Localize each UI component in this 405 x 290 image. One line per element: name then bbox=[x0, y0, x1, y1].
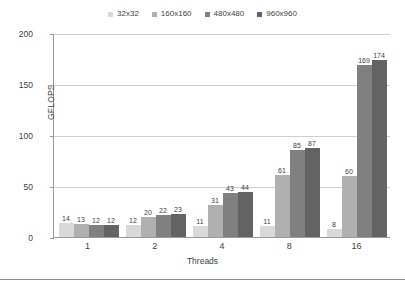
legend-swatch-icon bbox=[205, 12, 210, 17]
bar-rect bbox=[305, 148, 320, 237]
bar-value-label: 169 bbox=[358, 57, 370, 64]
bar-480x480-1[interactable]: 12 bbox=[89, 34, 104, 237]
y-axis-tick bbox=[50, 85, 54, 86]
y-axis-tick-label: 100 bbox=[0, 132, 33, 141]
y-axis-tick-label: 200 bbox=[0, 30, 33, 39]
y-axis-tick bbox=[50, 34, 54, 35]
legend-label: 160x160 bbox=[161, 10, 192, 18]
x-axis-tick-label: 4 bbox=[188, 241, 255, 251]
bar-value-label: 60 bbox=[345, 168, 353, 175]
y-axis-tick bbox=[50, 136, 54, 137]
x-axis-tick-label: 8 bbox=[256, 241, 323, 251]
bar-rect bbox=[59, 223, 74, 237]
bar-group-1: 14131212 bbox=[55, 34, 122, 237]
bar-rect bbox=[357, 65, 372, 237]
bar-group-16: 860169174 bbox=[323, 34, 390, 237]
bar-value-label: 12 bbox=[92, 217, 100, 224]
legend-item-32x32[interactable]: 32x32 bbox=[108, 10, 139, 18]
bar-rect bbox=[104, 225, 119, 237]
bar-value-label: 61 bbox=[278, 167, 286, 174]
bar-960x960-4[interactable]: 44 bbox=[238, 34, 253, 237]
bar-group-8: 11618587 bbox=[256, 34, 323, 237]
legend-item-160x160[interactable]: 160x160 bbox=[152, 10, 192, 18]
bar-rect bbox=[171, 214, 186, 237]
bar-rect bbox=[156, 215, 171, 237]
bar-group-2: 12202223 bbox=[122, 34, 189, 237]
bar-value-label: 44 bbox=[241, 184, 249, 191]
y-axis-tick-label: 50 bbox=[0, 183, 33, 192]
x-axis-tick-label: 2 bbox=[121, 241, 188, 251]
bar-32x32-2[interactable]: 12 bbox=[126, 34, 141, 237]
bar-960x960-8[interactable]: 87 bbox=[305, 34, 320, 237]
y-axis-tick bbox=[50, 238, 54, 239]
bar-480x480-4[interactable]: 43 bbox=[223, 34, 238, 237]
x-axis-tick-label: 1 bbox=[54, 241, 121, 251]
bar-rect bbox=[342, 176, 357, 237]
bar-value-label: 12 bbox=[129, 217, 137, 224]
bar-32x32-16[interactable]: 8 bbox=[327, 34, 342, 237]
bar-groups: 1413121212202223113143441161858786016917… bbox=[55, 34, 390, 237]
bar-160x160-2[interactable]: 20 bbox=[141, 34, 156, 237]
bar-value-label: 85 bbox=[293, 142, 301, 149]
bar-160x160-16[interactable]: 60 bbox=[342, 34, 357, 237]
legend-label: 960x960 bbox=[266, 10, 297, 18]
bar-value-label: 14 bbox=[62, 215, 70, 222]
bar-rect bbox=[372, 60, 387, 237]
bar-value-label: 13 bbox=[77, 216, 85, 223]
bar-value-label: 11 bbox=[196, 218, 203, 225]
legend-label: 480x480 bbox=[214, 10, 245, 18]
bar-rect bbox=[141, 217, 156, 237]
bar-160x160-8[interactable]: 61 bbox=[275, 34, 290, 237]
legend-swatch-icon bbox=[257, 12, 262, 17]
bar-480x480-16[interactable]: 169 bbox=[357, 34, 372, 237]
bar-480x480-2[interactable]: 22 bbox=[156, 34, 171, 237]
bar-rect bbox=[290, 150, 305, 237]
bar-rect bbox=[223, 193, 238, 237]
bar-value-label: 31 bbox=[211, 197, 219, 204]
bar-value-label: 11 bbox=[263, 218, 270, 225]
footer-divider bbox=[0, 279, 405, 280]
plot-area: GFLOPS 141312121220222311314344116185878… bbox=[53, 34, 390, 238]
bar-960x960-2[interactable]: 23 bbox=[171, 34, 186, 237]
bar-group-4: 11314344 bbox=[189, 34, 256, 237]
y-axis-tick-label: 0 bbox=[0, 234, 33, 243]
bar-value-label: 23 bbox=[174, 206, 182, 213]
bar-value-label: 8 bbox=[332, 221, 336, 228]
bar-rect bbox=[260, 226, 275, 237]
legend-swatch-icon bbox=[152, 12, 157, 17]
legend-item-480x480[interactable]: 480x480 bbox=[205, 10, 245, 18]
bar-rect bbox=[275, 175, 290, 237]
bar-rect bbox=[327, 229, 342, 237]
bar-480x480-8[interactable]: 85 bbox=[290, 34, 305, 237]
x-axis-tick-label: 16 bbox=[323, 241, 390, 251]
bar-160x160-4[interactable]: 31 bbox=[208, 34, 223, 237]
bar-160x160-1[interactable]: 13 bbox=[74, 34, 89, 237]
bar-value-label: 20 bbox=[144, 209, 152, 216]
bar-32x32-8[interactable]: 11 bbox=[260, 34, 275, 237]
legend-label: 32x32 bbox=[117, 10, 139, 18]
bar-rect bbox=[208, 205, 223, 237]
bar-32x32-1[interactable]: 14 bbox=[59, 34, 74, 237]
bar-value-label: 12 bbox=[107, 217, 115, 224]
x-axis-tick-labels: 124816 bbox=[54, 241, 390, 251]
bar-32x32-4[interactable]: 11 bbox=[193, 34, 208, 237]
bar-rect bbox=[193, 226, 208, 237]
bar-rect bbox=[89, 225, 104, 237]
y-axis-tick bbox=[50, 187, 54, 188]
bar-value-label: 22 bbox=[159, 207, 167, 214]
bar-rect bbox=[74, 224, 89, 237]
legend-item-960x960[interactable]: 960x960 bbox=[257, 10, 297, 18]
bar-960x960-1[interactable]: 12 bbox=[104, 34, 119, 237]
x-axis-title: Threads bbox=[0, 256, 405, 266]
bar-chart: 32x32160x160480x480960x960 GFLOPS 141312… bbox=[0, 0, 405, 290]
bar-value-label: 87 bbox=[308, 140, 316, 147]
bar-value-label: 174 bbox=[373, 52, 385, 59]
bar-rect bbox=[126, 225, 141, 237]
chart-legend: 32x32160x160480x480960x960 bbox=[0, 10, 405, 18]
y-axis-tick-label: 150 bbox=[0, 81, 33, 90]
bar-value-label: 43 bbox=[226, 185, 234, 192]
bar-960x960-16[interactable]: 174 bbox=[372, 34, 387, 237]
legend-swatch-icon bbox=[108, 12, 113, 17]
bar-rect bbox=[238, 192, 253, 237]
